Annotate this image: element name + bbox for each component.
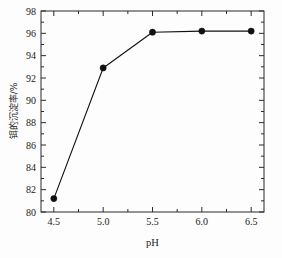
y-tick-label-7: 94 <box>26 50 36 61</box>
data-point-2 <box>149 29 155 35</box>
chart-page: 4.55.05.56.06.5 80828486889092949698 pH … <box>0 0 282 258</box>
x-tick-label-4: 6.5 <box>245 216 258 227</box>
line-chart: 4.55.05.56.06.5 80828486889092949698 pH … <box>0 0 282 258</box>
y-tick-label-0: 80 <box>26 207 36 218</box>
x-tick-label-2: 5.5 <box>146 216 159 227</box>
y-tick-label-8: 96 <box>26 28 36 39</box>
y-axis-title: 铒的沉淀率/% <box>8 82 19 139</box>
data-point-1 <box>100 65 106 71</box>
x-axis-title: pH <box>146 237 159 248</box>
data-point-3 <box>199 28 205 34</box>
y-tick-label-5: 90 <box>26 95 36 106</box>
y-tick-label-1: 82 <box>26 184 36 195</box>
y-tick-label-9: 98 <box>26 6 36 17</box>
y-tick-label-3: 86 <box>26 140 36 151</box>
data-point-0 <box>51 196 57 202</box>
chart-background <box>0 0 282 258</box>
x-tick-label-1: 5.0 <box>97 216 110 227</box>
y-tick-label-2: 84 <box>26 162 36 173</box>
data-point-4 <box>248 28 254 34</box>
y-tick-label-6: 92 <box>26 73 36 84</box>
x-tick-label-0: 4.5 <box>48 216 61 227</box>
y-tick-label-4: 88 <box>26 117 36 128</box>
x-tick-label-3: 6.0 <box>196 216 209 227</box>
